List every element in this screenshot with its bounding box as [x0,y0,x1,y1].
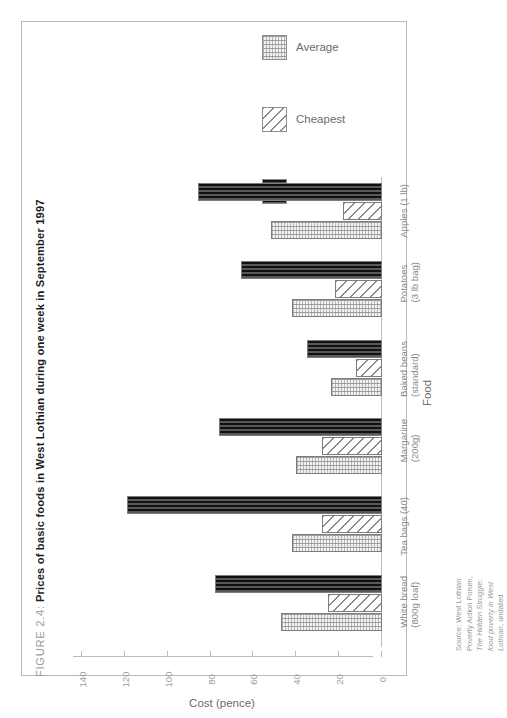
value-axis-tick [252,651,253,657]
value-axis-tick-label: 80 [205,667,216,693]
category-axis-title: Food [421,380,433,406]
bar-dearest [215,575,382,593]
bar-group: Tea bags (40) [52,490,382,568]
legend-item-average: Average [262,34,382,60]
value-axis-tick-label: 140 [77,667,88,693]
value-axis-tick-label: 40 [291,667,302,693]
category-label-line1: Potatoes [398,265,409,303]
source-prefix: Source: West Lothian Poverty Action Foru… [454,576,474,651]
category-label-line1: Apples (1 lb) [398,184,409,238]
category-label: Apples (1 lb) [398,184,409,238]
value-axis-tick-label: 60 [248,667,259,693]
category-label-line1: Baked beans [398,341,409,397]
bar-average [281,613,382,631]
bar-cheapest [356,359,382,377]
bar-cheapest [328,594,382,612]
source-note: Source: West Lothian Poverty Action Foru… [454,565,507,651]
figure-frame: FIGURE 2.4: Prices of basic foods in Wes… [21,21,407,676]
figure-caption: FIGURE 2.4: Prices of basic foods in Wes… [34,22,52,677]
value-axis-tick [295,651,296,657]
value-axis-tick [338,651,339,657]
bar-average [292,534,382,552]
category-label-line1: Margarine [398,419,409,462]
legend-item-cheapest: Cheapest [262,106,382,132]
bar-cheapest [322,437,382,455]
bar-group: Apples (1 lb) [52,177,382,255]
category-label-line2: (800g loaf) [409,576,420,628]
category-label-line2: (3 lb bag) [409,262,420,303]
bar-dearest [198,183,382,201]
figure-label: FIGURE 2.4: [34,605,46,677]
bar-dearest [307,340,382,358]
value-axis-tick-label: 100 [162,667,173,693]
plot-area: 140120100806040200 Apples (1 lb)Potatoes… [52,177,382,647]
legend-label-cheapest: Cheapest [296,113,345,125]
category-label: Tea bags (40) [398,497,409,556]
bar-dearest [127,496,382,514]
value-axis-line [73,656,373,657]
figure-title: Prices of basic foods in West Lothian du… [34,199,46,602]
bar-cheapest [335,280,382,298]
value-axis-tick [81,651,82,657]
value-axis-tick-label: 0 [377,667,388,693]
bar-group: Baked beans(standard) [52,334,382,412]
category-label-line2: (200g) [409,419,420,462]
bar-cheapest [322,515,382,533]
source-suffix: , undated [496,594,505,626]
source-note-wrap: Source: West Lothian Poverty Action Foru… [454,565,466,655]
category-label-line2: (standard) [409,341,420,397]
legend-swatch-average-icon [262,35,287,60]
value-axis-title: Cost (pence) [132,697,312,709]
value-axis-tick [167,651,168,657]
bar-average [271,221,382,239]
bar-group: Margarine(200g) [52,412,382,490]
bar-cheapest [343,202,382,220]
bar-average [331,378,382,396]
value-axis-tick-label: 20 [334,667,345,693]
category-label-line1: White bread [398,576,409,628]
bar-average [292,299,382,317]
value-axis-tick [210,651,211,657]
legend-swatch-cheapest-icon [262,107,287,132]
value-axis-tick-label: 120 [119,667,130,693]
value-axis-tick [381,651,382,657]
bar-dearest [219,418,382,436]
value-axis-tick [124,651,125,657]
category-label: White bread(800g loaf) [398,576,420,628]
category-label: Baked beans(standard) [398,341,420,397]
legend-label-average: Average [296,41,339,53]
bar-group: White bread(800g loaf) [52,569,382,647]
category-label-line1: Tea bags (40) [398,497,409,556]
category-label: Potatoes(3 lb bag) [398,262,420,303]
category-label: Margarine(200g) [398,419,420,462]
bar-group: Potatoes(3 lb bag) [52,255,382,333]
bar-average [296,456,382,474]
bar-dearest [241,261,382,279]
